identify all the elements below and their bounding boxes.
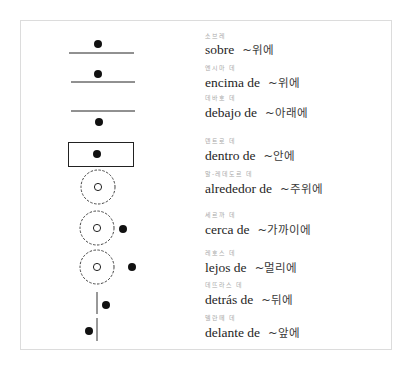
- korean-meaning: ~가까이에: [258, 223, 312, 237]
- pronunciation-label: 데바호 데: [205, 93, 236, 102]
- diagram-lejos: [80, 250, 136, 284]
- spanish-term: cerca de: [205, 222, 250, 237]
- korean-meaning: ~아래에: [265, 106, 308, 120]
- korean-meaning: ~위에: [268, 76, 300, 90]
- korean-meaning: ~뒤에: [261, 293, 293, 307]
- diagram-delante: [85, 318, 97, 341]
- spanish-term: dentro de: [205, 148, 256, 163]
- diagram-detras: [97, 292, 110, 314]
- diagram-alrededor: [81, 170, 115, 204]
- spanish-term: detrás de: [205, 292, 253, 307]
- spanish-term: delante de: [205, 325, 260, 340]
- spanish-term: sobre: [205, 42, 234, 57]
- korean-meaning: ~안에: [264, 149, 296, 163]
- pronunciation-label: 레호스 데: [205, 248, 236, 257]
- spanish-term: alrededor de: [205, 181, 272, 196]
- pronunciation-label: 델란떼 데: [205, 313, 236, 322]
- diagram-dentro: [69, 143, 134, 167]
- spanish-term: debajo de: [205, 105, 257, 120]
- korean-meaning: ~위에: [242, 43, 274, 57]
- diagram-sobre: [69, 40, 134, 53]
- pronunciation-label: 세르까 데: [205, 210, 236, 219]
- korean-meaning: ~멀리에: [255, 261, 298, 275]
- korean-meaning: ~주위에: [280, 182, 323, 196]
- spanish-term: lejos de: [205, 260, 247, 275]
- diagram-debajo: [71, 111, 135, 126]
- pronunciation-label: 엔시마 데: [205, 63, 236, 72]
- pronunciation-label: 데뜨라스 데: [205, 280, 243, 289]
- spanish-term: encima de: [205, 75, 260, 90]
- pronunciation-label: 덴트로 데: [205, 136, 236, 145]
- korean-meaning: ~앞에: [268, 326, 300, 340]
- pronunciation-label: 소브레: [205, 31, 226, 40]
- diagram-encima: [71, 70, 135, 82]
- diagram-cerca: [80, 211, 127, 245]
- pronunciation-label: 알-레데도르 데: [205, 169, 253, 178]
